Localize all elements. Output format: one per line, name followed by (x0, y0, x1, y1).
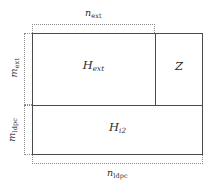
block-label-h-i2: Hi2 (32, 122, 203, 134)
block-label-z-base: Z (175, 59, 183, 73)
dimension-brace-n-ext (32, 24, 155, 33)
dimension-label-n-ldpc-subscript: ldpc (113, 172, 128, 180)
dimension-brace-m-ext (24, 33, 32, 105)
matrix-divider-horizontal (32, 105, 203, 106)
dimension-label-m-ldpc: mldpc (7, 105, 17, 155)
block-label-h-ext-subscript: ext (93, 64, 105, 73)
dimension-label-n-ldpc: nldpc (32, 168, 203, 178)
dimension-brace-m-ldpc (24, 105, 32, 155)
block-matrix-figure: Hext Z Hi2 next mext mldpc nldpc (0, 0, 211, 185)
block-label-z: Z (155, 61, 203, 73)
dimension-label-m-ext: mext (9, 32, 19, 104)
dimension-label-n-ext: next (32, 8, 155, 18)
dimension-label-m-ldpc-base: m (6, 133, 17, 142)
block-label-h-i2-subscript: i2 (119, 126, 126, 135)
dimension-label-m-ext-subscript: ext (13, 58, 21, 69)
matrix-outline (32, 33, 203, 155)
dimension-label-m-ldpc-subscript: ldpc (11, 118, 19, 133)
block-label-h-ext-base: H (83, 58, 93, 72)
block-label-h-ext: Hext (32, 60, 155, 72)
dimension-label-n-ext-subscript: ext (91, 12, 102, 20)
block-label-h-i2-base: H (109, 120, 119, 134)
dimension-brace-n-ldpc (32, 155, 203, 164)
dimension-label-m-ext-base: m (8, 69, 19, 78)
